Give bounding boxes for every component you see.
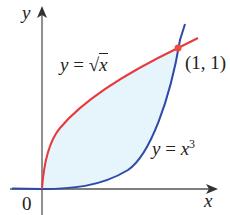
radical-sign-icon: √	[89, 54, 99, 75]
origin-label: 0	[22, 193, 32, 215]
intersection-label: (1, 1)	[185, 52, 226, 74]
y-axis-label: y	[22, 2, 30, 24]
sqrt-curve-label: y = √x	[60, 54, 108, 76]
x-axis-label: x	[204, 190, 212, 212]
cube-label-eq: =	[160, 138, 180, 159]
sqrt-label-eq: =	[68, 54, 88, 75]
cube-curve-label: y = x3	[152, 137, 195, 160]
area-between-curves-figure: y x 0 y = √x y = x3 (1, 1)	[0, 0, 230, 215]
cube-label-base: x	[181, 138, 189, 159]
intersection-point	[175, 45, 182, 52]
sqrt-label-radicand: x	[99, 53, 107, 75]
cube-label-exp: 3	[189, 137, 195, 151]
plot	[0, 0, 230, 215]
